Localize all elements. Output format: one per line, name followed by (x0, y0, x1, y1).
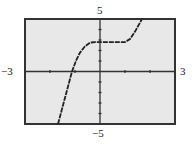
ymax-label: 5 (97, 5, 103, 16)
xmax-label: 3 (180, 66, 186, 77)
xmin-label: −3 (1, 66, 13, 77)
ymin-label: −5 (92, 128, 104, 139)
